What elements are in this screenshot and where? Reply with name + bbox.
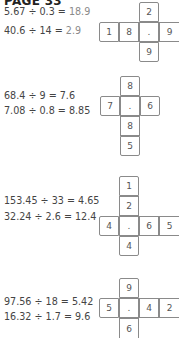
grid-cell: . [139,22,159,42]
grid-cell: 1 [99,22,119,42]
equation: 32.24 ÷ 2.6 = 12.4 [4,210,96,224]
grid-cell: 9 [159,22,179,42]
grid-cell: 5 [159,216,179,236]
equation-expression: 68.4 ÷ 9 = [4,90,60,101]
equation-result: 7.6 [60,90,75,101]
grid-cell: 5 [120,136,140,156]
equation-result: 5.42 [72,296,93,307]
grid-cell: 2 [119,196,139,216]
equation-result: 4.65 [78,195,99,206]
grid-cell: 8 [119,22,139,42]
grid-cell: 7 [100,96,120,116]
equation: 40.6 ÷ 14 = 2.9 [4,24,81,38]
equation: 5.67 ÷ 0.3 = 18.9 [4,5,90,19]
grid-cell: 6 [139,216,159,236]
equation-result: 12.4 [75,211,96,222]
equation-expression: 5.67 ÷ 0.3 = [4,6,69,17]
equation-expression: 7.08 ÷ 0.8 = [4,105,69,116]
grid-cell: 8 [120,76,140,96]
equation-expression: 97.56 ÷ 18 = [4,296,72,307]
grid-cell: 2 [159,298,179,318]
grid-cell: 9 [119,278,139,298]
grid-cell: 5 [99,298,119,318]
equation: 68.4 ÷ 9 = 7.6 [4,89,75,103]
equation-expression: 153.45 ÷ 33 = [4,195,78,206]
grid-cell: 4 [119,236,139,256]
equation-expression: 16.32 ÷ 1.7 = [4,311,75,322]
grid-cell: 8 [120,116,140,136]
equation-result: 18.9 [69,6,90,17]
equation-result: 9.6 [75,311,90,322]
grid-cell: . [119,298,139,318]
grid-cell: . [119,216,139,236]
grid-cell: 4 [99,216,119,236]
grid-cell: 9 [139,42,159,62]
equation-result: 8.85 [69,105,90,116]
equation-result: 2.9 [66,25,81,36]
equation: 16.32 ÷ 1.7 = 9.6 [4,310,90,324]
grid-cell: 1 [119,176,139,196]
equation: 97.56 ÷ 18 = 5.42 [4,295,93,309]
equation-expression: 40.6 ÷ 14 = [4,25,66,36]
grid-cell: 4 [139,298,159,318]
grid-cell: 2 [139,2,159,22]
grid-cell: 6 [140,96,160,116]
grid-cell: . [120,96,140,116]
equation: 7.08 ÷ 0.8 = 8.85 [4,104,90,118]
equation: 153.45 ÷ 33 = 4.65 [4,194,99,208]
grid-cell: 6 [119,318,139,338]
equation-expression: 32.24 ÷ 2.6 = [4,211,75,222]
